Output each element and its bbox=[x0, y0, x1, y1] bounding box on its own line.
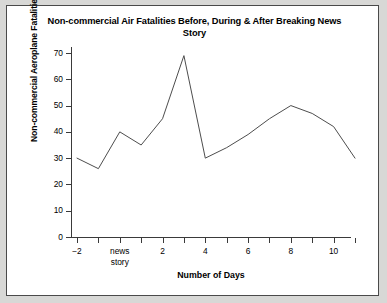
plot-area: 010203040506070 −2newsstory246810 Non-co… bbox=[7, 6, 380, 297]
y-axis-title: Non-commercial Aeroplane Fatalities bbox=[29, 0, 39, 142]
data-series-line bbox=[7, 6, 380, 297]
chart-figure: Non-commercial Air Fatalities Before, Du… bbox=[6, 5, 379, 296]
x-axis-title: Number of Days bbox=[71, 270, 351, 280]
